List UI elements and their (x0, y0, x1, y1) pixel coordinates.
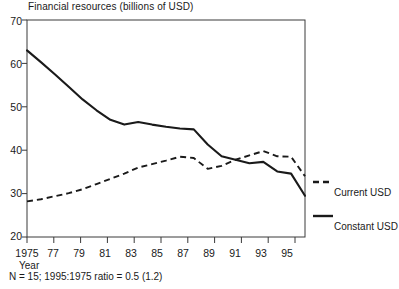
plot-frame (27, 20, 305, 237)
chart-figure: Financial resources (billions of USD) 70… (0, 0, 399, 289)
series-line-current-usd (27, 151, 305, 201)
y-tick-marks (22, 20, 27, 237)
x-tick-marks (27, 237, 295, 243)
series-line-constant-usd (27, 50, 305, 195)
plot-area (0, 0, 399, 289)
